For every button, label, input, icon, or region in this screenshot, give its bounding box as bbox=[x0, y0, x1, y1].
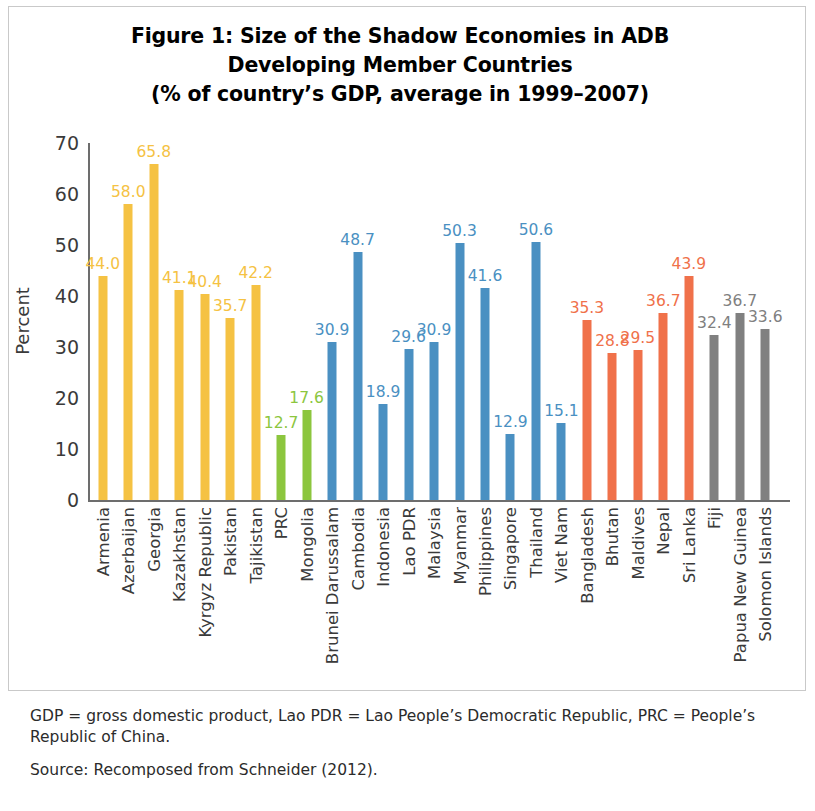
bar[interactable] bbox=[353, 252, 362, 500]
figure-title-line-2: Developing Member Countries bbox=[30, 51, 770, 80]
bar-group[interactable]: 36.7 bbox=[651, 143, 676, 500]
x-axis-label: Solomon Islands bbox=[765, 507, 784, 642]
bar[interactable] bbox=[328, 342, 337, 500]
bar[interactable] bbox=[251, 285, 260, 500]
bar-group[interactable]: 41.6 bbox=[472, 143, 497, 500]
bar[interactable] bbox=[379, 404, 388, 500]
bar-group[interactable]: 30.9 bbox=[319, 143, 344, 500]
figure-title: Figure 1: Size of the Shadow Economies i… bbox=[30, 22, 770, 109]
bar[interactable] bbox=[531, 242, 540, 500]
bar-group[interactable]: 18.9 bbox=[370, 143, 395, 500]
figure-notes: GDP = gross domestic product, Lao PDR = … bbox=[30, 706, 790, 781]
bar[interactable] bbox=[506, 434, 515, 500]
bar[interactable] bbox=[200, 294, 209, 500]
bar-group[interactable]: 65.8 bbox=[141, 143, 166, 500]
bar[interactable] bbox=[480, 288, 489, 500]
bar-group[interactable]: 41.1 bbox=[166, 143, 191, 500]
bar-group[interactable]: 29.5 bbox=[625, 143, 650, 500]
notes-definitions: GDP = gross domestic product, Lao PDR = … bbox=[30, 706, 790, 748]
y-axis-tick-label: 40 bbox=[55, 285, 79, 307]
notes-source: Source: Recomposed from Schneider (2012)… bbox=[30, 760, 790, 781]
bar-group[interactable]: 30.9 bbox=[421, 143, 446, 500]
figure-root: Figure 1: Size of the Shadow Economies i… bbox=[0, 0, 815, 811]
y-axis-tick-label: 60 bbox=[55, 183, 79, 205]
bar[interactable] bbox=[277, 435, 286, 500]
bar[interactable] bbox=[710, 335, 719, 500]
y-axis-tick-label: 0 bbox=[67, 489, 79, 511]
bar[interactable] bbox=[455, 243, 464, 500]
bar-group[interactable]: 33.6 bbox=[753, 143, 778, 500]
y-axis-tick-label: 10 bbox=[55, 438, 79, 460]
bar-group[interactable]: 15.1 bbox=[549, 143, 574, 500]
y-axis-title: Percent bbox=[12, 287, 33, 355]
bars-layer: 44.058.065.841.140.435.742.212.717.630.9… bbox=[88, 143, 790, 500]
bar-group[interactable]: 12.7 bbox=[268, 143, 293, 500]
bar[interactable] bbox=[226, 318, 235, 500]
bar[interactable] bbox=[98, 276, 107, 500]
bar[interactable] bbox=[124, 204, 133, 500]
bar-group[interactable]: 32.4 bbox=[702, 143, 727, 500]
x-axis-line bbox=[88, 500, 790, 502]
bar[interactable] bbox=[684, 276, 693, 500]
bar-group[interactable]: 58.0 bbox=[116, 143, 141, 500]
bar-value-label: 33.6 bbox=[748, 308, 783, 326]
x-axis-labels: ArmeniaAzerbaijanGeorgiaKazakhstanKyrgyz… bbox=[88, 503, 790, 693]
bar[interactable] bbox=[659, 313, 668, 500]
bar-group[interactable]: 35.3 bbox=[574, 143, 599, 500]
bar-group[interactable]: 35.7 bbox=[217, 143, 242, 500]
y-axis-tick-label: 30 bbox=[55, 336, 79, 358]
bar[interactable] bbox=[175, 290, 184, 500]
plot-area: Percent 010203040506070 44.058.065.841.1… bbox=[88, 143, 790, 500]
bar[interactable] bbox=[633, 350, 642, 500]
y-axis-tick-label: 70 bbox=[55, 132, 79, 154]
bar[interactable] bbox=[761, 329, 770, 500]
bar[interactable] bbox=[430, 342, 439, 500]
bar[interactable] bbox=[735, 313, 744, 500]
bar-group[interactable]: 28.8 bbox=[600, 143, 625, 500]
bar[interactable] bbox=[404, 349, 413, 500]
bar-group[interactable]: 12.9 bbox=[498, 143, 523, 500]
bar[interactable] bbox=[608, 353, 617, 500]
bar[interactable] bbox=[302, 410, 311, 500]
y-axis-tick-label: 20 bbox=[55, 387, 79, 409]
bar[interactable] bbox=[557, 423, 566, 500]
bar-group[interactable]: 50.6 bbox=[523, 143, 548, 500]
bar[interactable] bbox=[582, 320, 591, 500]
bar-group[interactable]: 50.3 bbox=[447, 143, 472, 500]
figure-title-line-1: Figure 1: Size of the Shadow Economies i… bbox=[30, 22, 770, 51]
bar-group[interactable]: 42.2 bbox=[243, 143, 268, 500]
bar-group[interactable]: 48.7 bbox=[345, 143, 370, 500]
figure-title-line-3: (% of country’s GDP, average in 1999–200… bbox=[30, 80, 770, 109]
bar-group[interactable]: 40.4 bbox=[192, 143, 217, 500]
y-axis-tick-label: 50 bbox=[55, 234, 79, 256]
bar[interactable] bbox=[149, 164, 158, 500]
